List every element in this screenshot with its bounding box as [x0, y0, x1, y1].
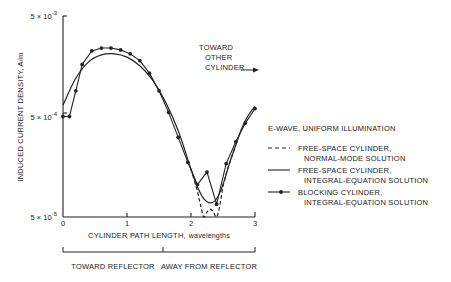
data-point — [196, 183, 200, 187]
data-point — [74, 89, 78, 93]
x-tick-label: 2 — [189, 219, 193, 228]
x-tick-label: 3 — [253, 219, 257, 228]
data-point — [68, 115, 72, 119]
legend-title: E-WAVE, UNIFORM ILLUMINATION — [268, 124, 396, 133]
region-label-away-from-reflector: AWAY FROM REFLECTOR — [161, 262, 258, 271]
data-point — [215, 202, 219, 206]
legend-entry-line2: NORMAL-MODE SOLUTION — [304, 154, 406, 163]
legend-entry-line2: INTEGRAL-EQUATION SOLUTION — [304, 176, 428, 185]
legend: E-WAVE, UNIFORM ILLUMINATIONFREE-SPACE C… — [268, 124, 428, 207]
x-axis-label: CYLINDER PATH LENGTH,wavelengths — [88, 231, 230, 240]
region-bracket — [63, 247, 255, 252]
y-tick-labels: 5 × 10-35 × 10-45 × 10-5 — [31, 10, 58, 222]
data-point — [119, 48, 123, 52]
y-tick-label: 5 × 10-4 — [31, 111, 58, 122]
y-tick-label: 5 × 10-3 — [31, 10, 58, 21]
data-point — [90, 49, 94, 53]
data-point — [205, 170, 209, 174]
x-tick-label: 1 — [125, 219, 129, 228]
data-point — [176, 135, 180, 139]
svg-text:CYLINDER: CYLINDER — [205, 63, 245, 72]
x-tick-label: 0 — [61, 219, 65, 228]
data-point — [244, 121, 248, 125]
svg-text:TOWARD: TOWARD — [199, 43, 233, 52]
legend-entry-line1: BLOCKING CYLINDER, — [298, 188, 382, 197]
data-point — [157, 89, 161, 93]
data-point — [167, 110, 171, 114]
legend-entry-line1: FREE-SPACE CYLINDER, — [298, 144, 391, 153]
data-point — [61, 115, 65, 119]
data-point — [128, 52, 132, 56]
legend-entry-line1: FREE-SPACE CYLINDER, — [298, 166, 391, 175]
chart: 5 × 10-35 × 10-45 × 10-5 0123 INDUCED CU… — [0, 0, 451, 282]
y-tick-label: 5 × 10-5 — [31, 211, 58, 222]
data-point — [109, 46, 113, 50]
arrow-right-icon — [253, 68, 259, 73]
data-point — [100, 46, 104, 50]
series-integral-equation — [63, 54, 255, 203]
data-point — [224, 162, 228, 166]
data-point — [234, 140, 238, 144]
svg-text:OTHER: OTHER — [205, 53, 233, 62]
data-point — [148, 71, 152, 75]
region-label-toward-reflector: TOWARD REFLECTOR — [71, 262, 155, 271]
data-point — [80, 62, 84, 66]
x-tick-labels: 0123 — [61, 219, 257, 228]
data-point — [253, 107, 257, 111]
legend-entry-line2: INTEGRAL-EQUATION SOLUTION — [304, 198, 428, 207]
y-axis-label: INDUCED CURRENT DENSITY, A/m — [16, 52, 25, 181]
annotation-toward-other-cylinder: TOWARD OTHER CYLINDER — [199, 43, 259, 73]
data-point — [186, 160, 190, 164]
data-point — [138, 59, 142, 63]
